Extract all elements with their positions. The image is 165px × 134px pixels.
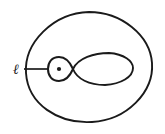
diagram-canvas: ℓ bbox=[0, 0, 165, 134]
node-dot-marker bbox=[57, 67, 61, 71]
figure-container: ℓ bbox=[0, 0, 165, 134]
large-lobe-curve bbox=[73, 53, 133, 85]
loop-label: ℓ bbox=[13, 62, 19, 77]
